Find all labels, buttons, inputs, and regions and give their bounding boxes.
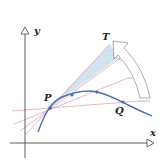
curve-point-2: [95, 90, 98, 93]
y-axis-arrow-icon: [21, 27, 29, 34]
tangent-label: T: [102, 32, 109, 42]
diagram-canvas: [0, 0, 165, 166]
curve-point-1: [70, 93, 73, 96]
axes: [10, 30, 150, 158]
function-curve: [38, 91, 152, 132]
point-q-marker: [121, 100, 124, 103]
point-p-marker: [48, 106, 52, 110]
point-p-label: P: [44, 93, 52, 103]
secant-tangent-diagram: y x P Q T: [0, 0, 165, 166]
x-axis-label: x: [150, 128, 156, 138]
rotation-arrow-icon: [113, 41, 150, 98]
y-axis-label: y: [34, 26, 40, 36]
point-q-label: Q: [115, 106, 124, 116]
x-axis-arrow-icon: [147, 139, 154, 147]
